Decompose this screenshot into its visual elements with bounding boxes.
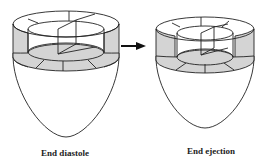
cut-plane-edge — [76, 14, 95, 20]
inner-top-ellipse — [177, 26, 233, 40]
outer-top-ellipse — [13, 11, 119, 37]
segment-divider — [172, 23, 180, 27]
segment-divider — [28, 19, 38, 23]
lower-ring-band — [13, 44, 119, 71]
cut-plane-edge — [214, 24, 228, 27]
diagram-canvas: .s { fill: none; stroke: #222; stroke-wi… — [0, 0, 265, 167]
ventricle-end-ejection — [156, 17, 254, 128]
outer-top-ellipse — [156, 17, 254, 41]
label-end-ejection: End ejection — [176, 146, 246, 156]
label-end-diastole: End diastole — [30, 148, 100, 158]
transition-arrow-icon — [121, 42, 146, 50]
inner-top-ellipse — [28, 21, 104, 37]
ventricle-end-diastole — [13, 11, 119, 137]
